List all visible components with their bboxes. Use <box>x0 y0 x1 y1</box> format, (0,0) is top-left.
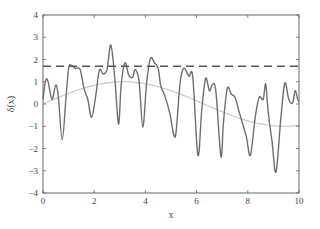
y-tick-label: −2 <box>28 144 38 154</box>
x-tick-label: 0 <box>41 196 46 206</box>
x-tick-label: 2 <box>92 196 97 206</box>
y-tick-label: −1 <box>28 121 38 131</box>
x-tick-label: 6 <box>194 196 199 206</box>
plot-series <box>43 45 299 172</box>
y-tick-label: 3 <box>34 32 39 42</box>
y-tick-label: 4 <box>34 10 39 20</box>
y-tick-label: 1 <box>34 77 39 87</box>
y-tick-label: −4 <box>28 188 38 198</box>
series-noisy-signal <box>43 45 299 172</box>
x-tick-label: 4 <box>143 196 148 206</box>
axes-box <box>43 15 299 193</box>
x-axis-label: x <box>169 209 174 220</box>
y-tick-label: 2 <box>34 55 39 65</box>
y-axis-label: δ(x) <box>5 96 17 112</box>
y-axis-ticks: −4−3−2−101234 <box>28 10 299 198</box>
x-axis-ticks: 0246810 <box>41 15 304 206</box>
y-tick-label: −3 <box>28 166 38 176</box>
x-tick-label: 8 <box>246 196 251 206</box>
line-chart: 0246810 −4−3−2−101234 x δ(x) <box>0 0 320 229</box>
y-tick-label: 0 <box>34 99 39 109</box>
x-tick-label: 10 <box>295 196 305 206</box>
